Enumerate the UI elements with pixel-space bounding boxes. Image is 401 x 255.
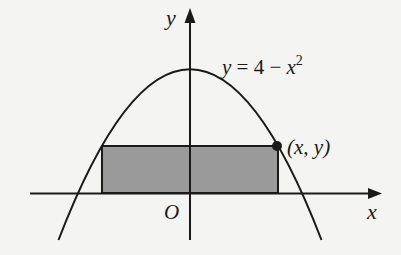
x-axis-label: x [366,199,377,224]
x-axis-arrow-icon [368,188,382,199]
curve-label-exponent: 2 [296,53,303,68]
y-axis-label: y [164,5,176,30]
curve-label-eq: = 4 − [231,55,286,79]
point-label: (x, y) [287,135,330,159]
corner-point [272,141,282,151]
diagram-canvas: y y = 4 − x2 (x, y) O x [0,0,401,255]
curve-label-y: y [220,55,232,79]
y-axis-arrow-icon [185,8,196,23]
origin-label: O [164,200,179,224]
curve-equation-label: y = 4 − x2 [220,53,303,79]
